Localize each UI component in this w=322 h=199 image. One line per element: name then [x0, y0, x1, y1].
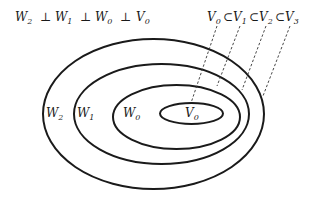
region-label-w0: W0 [123, 106, 140, 122]
term-v2: V2 [259, 10, 273, 26]
term-v1: V1 [233, 10, 247, 26]
term-v0: V0 [207, 10, 221, 26]
subset-symbol: ⊂ [275, 10, 285, 24]
orthogonality-relation: W2 ⊥ W1 ⊥ W0 ⊥ V0 [15, 10, 150, 26]
nested-subspace-diagram: W2 ⊥ W1 ⊥ W0 ⊥ V0 V0 ⊂ V1 ⊂ V2 ⊂ V3 W2 W… [0, 0, 322, 199]
pointer-line-v3 [263, 26, 290, 96]
subset-symbol: ⊂ [223, 10, 233, 24]
term-w2: W2 [15, 10, 32, 26]
term-v0: V0 [136, 10, 150, 26]
region-label-v0: V0 [185, 106, 199, 122]
pointer-line-v2 [242, 26, 266, 90]
perp-symbol: ⊥ [80, 10, 91, 24]
perp-symbol: ⊥ [40, 10, 51, 24]
term-w0: W0 [95, 10, 112, 26]
perp-symbol: ⊥ [120, 10, 131, 24]
region-label-w1: W1 [77, 106, 94, 122]
nesting-relation: V0 ⊂ V1 ⊂ V2 ⊂ V3 [207, 10, 299, 26]
term-w1: W1 [55, 10, 72, 26]
pointer-line-v1 [217, 26, 240, 86]
subset-symbol: ⊂ [249, 10, 259, 24]
region-label-w2: W2 [46, 106, 63, 122]
term-v3: V3 [285, 10, 299, 26]
